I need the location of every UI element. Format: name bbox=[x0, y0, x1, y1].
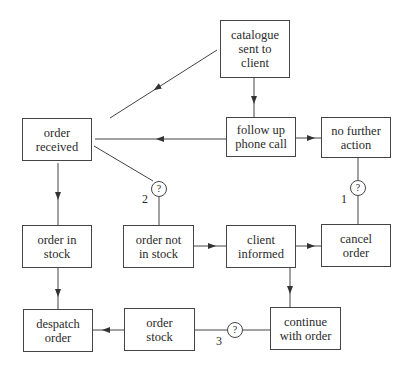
node-label-line: received bbox=[36, 140, 78, 154]
decision-label-1: 1 bbox=[341, 193, 347, 205]
node-label-line: phone call bbox=[235, 137, 287, 151]
node-label-line: client bbox=[238, 233, 284, 247]
decision-question-icon-3: ? bbox=[227, 322, 243, 338]
decision-label-2: 2 bbox=[142, 193, 148, 205]
node-label-line: sent to bbox=[231, 42, 279, 56]
node-label-line: in stock bbox=[136, 247, 181, 261]
node-label-line: order bbox=[36, 126, 78, 140]
node-order-received: order received bbox=[22, 118, 92, 161]
node-label-line: cancel bbox=[340, 232, 372, 246]
node-label-line: no further bbox=[331, 124, 381, 138]
node-label-line: continue bbox=[280, 315, 332, 329]
node-label-line: stock bbox=[146, 330, 172, 344]
node-label-line: action bbox=[331, 138, 381, 152]
node-label-line: order bbox=[340, 246, 372, 260]
node-label-line: order bbox=[36, 331, 80, 345]
node-continue-with-order: continue with order bbox=[270, 307, 341, 350]
node-follow-up-phone-call: follow up phone call bbox=[226, 117, 296, 157]
node-order-stock: order stock bbox=[124, 308, 195, 351]
node-order-not-in-stock: order not in stock bbox=[123, 225, 194, 268]
node-label-line: stock bbox=[37, 247, 76, 261]
node-label-line: client bbox=[231, 56, 279, 70]
decision-question-icon-1: ? bbox=[350, 180, 366, 196]
node-label-line: catalogue bbox=[231, 28, 279, 42]
node-label-line: despatch bbox=[36, 317, 80, 331]
node-order-in-stock: order in stock bbox=[22, 225, 92, 268]
node-despatch-order: despatch order bbox=[23, 309, 93, 352]
node-catalogue-sent-to-client: catalogue sent to client bbox=[220, 20, 290, 78]
node-label-line: with order bbox=[280, 329, 332, 343]
decision-label-3: 3 bbox=[216, 335, 222, 347]
decision-question-icon-2: ? bbox=[151, 181, 167, 197]
node-label-line: informed bbox=[238, 247, 284, 261]
node-no-further-action: no further action bbox=[321, 117, 391, 158]
node-label-line: order bbox=[146, 316, 172, 330]
node-label-line: follow up bbox=[235, 123, 287, 137]
node-cancel-order: cancel order bbox=[321, 224, 391, 267]
node-label-line: order in bbox=[37, 233, 76, 247]
node-label-line: order not bbox=[136, 233, 181, 247]
node-client-informed: client informed bbox=[226, 225, 296, 268]
